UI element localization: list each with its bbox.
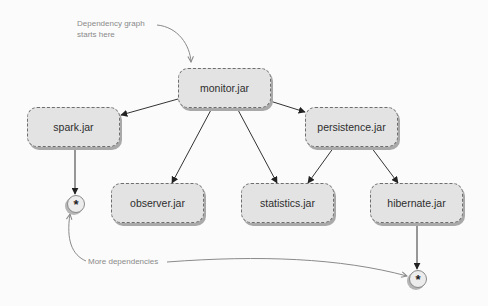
- edge-persistence-statistics: [308, 147, 334, 183]
- more-annotation-curve-right: [167, 259, 407, 276]
- node-label: statistics.jar: [260, 197, 315, 209]
- more-dependencies-star-icon: *: [409, 270, 427, 288]
- more-annotation-curve-left: [69, 214, 86, 261]
- edge-monitor-observer: [172, 108, 212, 183]
- more-dependencies-annotation: More dependencies: [88, 257, 158, 268]
- node-monitor-jar: monitor.jar: [178, 68, 271, 108]
- node-label: observer.jar: [130, 197, 185, 209]
- edges-layer: [0, 0, 488, 306]
- edge-monitor-spark: [121, 99, 178, 115]
- edge-monitor-statistics: [237, 108, 277, 183]
- star-glyph: *: [415, 273, 420, 286]
- node-statistics-jar: statistics.jar: [241, 183, 334, 223]
- node-observer-jar: observer.jar: [111, 183, 204, 223]
- node-label: hibernate.jar: [387, 197, 445, 209]
- node-hibernate-jar: hibernate.jar: [370, 183, 463, 223]
- node-spark-jar: spark.jar: [27, 107, 120, 147]
- start-annotation-curve: [157, 25, 191, 62]
- start-annotation: Dependency graph starts here: [77, 19, 145, 40]
- dependency-diagram: Dependency graph starts here monitor.jar…: [0, 0, 488, 306]
- node-label: spark.jar: [53, 121, 93, 133]
- start-annotation-line2: starts here: [77, 30, 145, 41]
- edge-persistence-hibernate: [371, 147, 398, 183]
- node-persistence-jar: persistence.jar: [305, 107, 398, 147]
- edge-monitor-persistence: [270, 101, 305, 112]
- node-label: monitor.jar: [200, 82, 249, 94]
- more-dependencies-star-icon: *: [67, 195, 85, 213]
- star-glyph: *: [73, 198, 78, 211]
- start-annotation-line1: Dependency graph: [77, 19, 145, 30]
- node-label: persistence.jar: [317, 121, 385, 133]
